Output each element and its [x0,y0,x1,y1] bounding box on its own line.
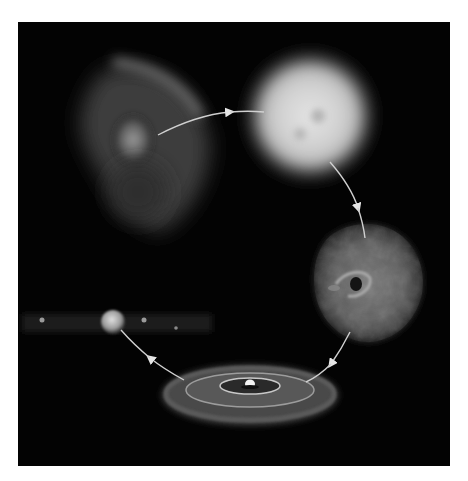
nebula-cloud-icon [81,62,210,232]
turbulent-cloud-icon [310,220,428,346]
stellar-cycle-diagram: clockwise [18,22,450,466]
arrow-disk-to-planets [150,358,184,380]
glowing-star-icon [238,44,382,188]
diagram-canvas [18,22,450,466]
disk-icon [162,365,338,425]
planet-row-icon [22,310,212,334]
arrow-cloud-to-disk [331,332,350,364]
